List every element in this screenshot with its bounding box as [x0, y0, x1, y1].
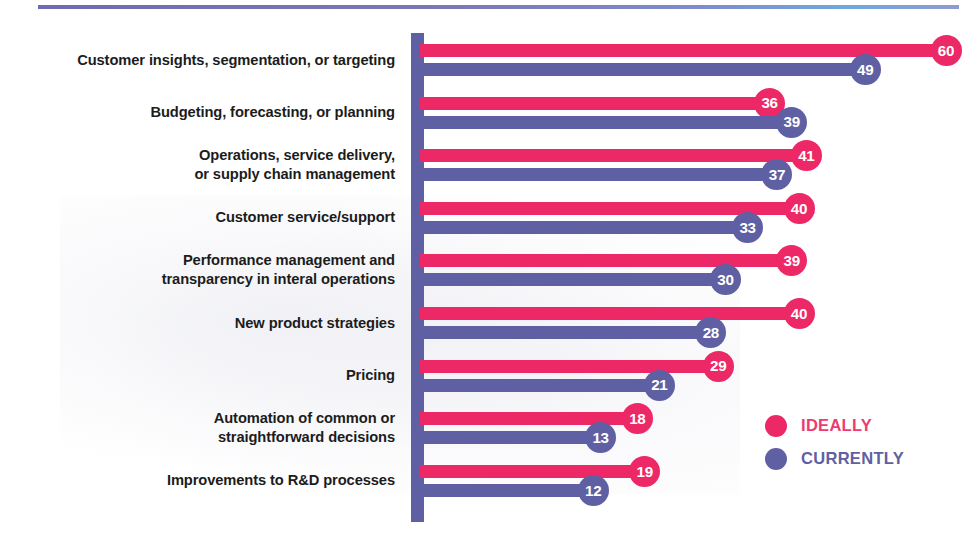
bar-currently: 21	[420, 379, 659, 392]
value-bubble: 33	[732, 212, 763, 243]
bar-ideally: 29	[420, 360, 718, 373]
legend-label-ideally: IDEALLY	[801, 416, 872, 435]
bar-currently: 39	[420, 116, 792, 129]
bar-fill	[420, 254, 792, 267]
category-label: Customer service/support	[15, 208, 395, 227]
bar-fill	[420, 431, 601, 444]
bar-ideally: 40	[420, 307, 799, 320]
bar-fill	[420, 221, 748, 234]
bar-currently: 30	[420, 273, 726, 286]
category-label: Performance management andtransparency i…	[15, 251, 395, 289]
value-bubble: 19	[629, 456, 660, 487]
value-bubble: 29	[703, 351, 734, 382]
category-label: Automation of common orstraightforward d…	[15, 409, 395, 447]
value-bubble: 39	[776, 107, 807, 138]
bar-fill	[420, 326, 711, 339]
bar-currently: 28	[420, 326, 711, 339]
chart-row: Performance management andtransparency i…	[0, 254, 959, 286]
value-bubble: 40	[784, 193, 815, 224]
chart-row: Operations, service delivery,or supply c…	[0, 149, 959, 181]
bar-fill	[420, 149, 806, 162]
legend-dot-ideally	[765, 415, 787, 437]
legend-dot-currently	[765, 448, 787, 470]
bar-fill	[420, 465, 645, 478]
bar-fill	[420, 360, 718, 373]
bar-ideally: 36	[420, 97, 770, 110]
bar-fill	[420, 63, 865, 76]
value-bubble: 49	[850, 54, 881, 85]
legend-label-currently: CURRENTLY	[801, 449, 904, 468]
chart-legend: IDEALLY CURRENTLY	[765, 409, 904, 475]
bar-currently: 33	[420, 221, 748, 234]
category-label: Improvements to R&D processes	[15, 471, 395, 490]
value-bubble: 37	[761, 159, 792, 190]
value-bubble: 40	[784, 298, 815, 329]
value-bubble: 30	[710, 264, 741, 295]
category-label: New product strategies	[15, 314, 395, 333]
bar-fill	[420, 379, 659, 392]
value-bubble: 13	[585, 422, 616, 453]
bar-ideally: 19	[420, 465, 645, 478]
value-bubble: 28	[695, 317, 726, 348]
chart-row: Customer service/support4033	[0, 202, 959, 234]
chart-row: Budgeting, forecasting, or planning3639	[0, 97, 959, 129]
bar-ideally: 39	[420, 254, 792, 267]
bar-fill	[420, 168, 777, 181]
bar-fill	[420, 307, 799, 320]
legend-item-currently: CURRENTLY	[765, 442, 904, 475]
bar-fill	[420, 273, 726, 286]
value-bubble: 21	[644, 370, 675, 401]
bar-currently: 37	[420, 168, 777, 181]
value-bubble: 12	[578, 475, 609, 506]
category-label: Pricing	[15, 366, 395, 385]
value-bubble: 18	[622, 403, 653, 434]
chart-row: New product strategies4028	[0, 307, 959, 339]
bar-fill	[420, 97, 770, 110]
value-bubble: 41	[791, 140, 822, 171]
chart-row: Pricing2921	[0, 360, 959, 392]
bar-currently: 13	[420, 431, 601, 444]
value-bubble: 60	[931, 35, 962, 66]
bar-fill	[420, 116, 792, 129]
bar-ideally: 41	[420, 149, 806, 162]
chart-row: Customer insights, segmentation, or targ…	[0, 44, 959, 76]
category-label: Customer insights, segmentation, or targ…	[15, 51, 395, 70]
bar-fill	[420, 484, 593, 497]
bar-currently: 12	[420, 484, 593, 497]
category-label: Budgeting, forecasting, or planning	[15, 103, 395, 122]
legend-item-ideally: IDEALLY	[765, 409, 904, 442]
bar-currently: 49	[420, 63, 865, 76]
category-label: Operations, service delivery,or supply c…	[15, 146, 395, 184]
value-bubble: 39	[776, 245, 807, 276]
